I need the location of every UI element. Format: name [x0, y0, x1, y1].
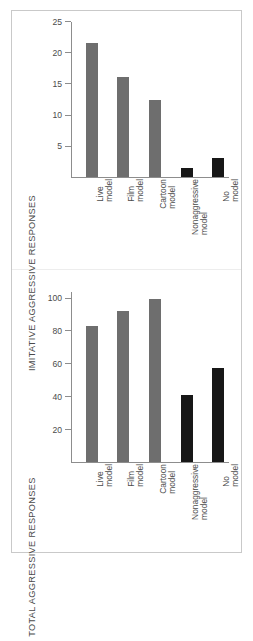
x-category-label: Livemodel: [96, 179, 115, 202]
x-axis-line: [71, 462, 229, 463]
y-axis-tick: 15: [65, 83, 71, 84]
x-category-labels: LivemodelFilmmodelCartoonmodelNonaggress…: [71, 464, 231, 550]
y-axis-tick-label: 20: [52, 48, 62, 58]
x-category-label: Nonaggressivemodel: [191, 464, 210, 520]
y-axis-tick: 5: [65, 146, 71, 147]
y-axis-tick: 100: [65, 298, 71, 299]
bar: [149, 299, 161, 462]
x-category-label-line2: model: [168, 179, 177, 209]
bar: [181, 395, 193, 462]
y-axis-tick-label: 10: [52, 110, 62, 120]
bar-group: [72, 22, 231, 177]
x-category-label: Cartoonmodel: [159, 464, 178, 494]
x-category-label: Livemodel: [96, 464, 115, 487]
x-category-label-line2: model: [231, 179, 240, 202]
y-axis-tick-label: 40: [52, 392, 62, 402]
y-axis-tick: 10: [65, 115, 71, 116]
x-category-label: Nomodel: [222, 179, 241, 202]
x-category-label-line2: model: [105, 464, 114, 487]
x-category-label-line2: model: [105, 179, 114, 202]
bar: [212, 368, 224, 462]
y-axis-title-total: TOTAL AGGRESSIVE RESPONSES: [22, 462, 42, 641]
chart-panel-imitative: IMITATIVE AGGRESSIVE RESPONSES 510152025…: [0, 0, 253, 272]
bar: [149, 100, 161, 177]
x-category-label: Filmmodel: [127, 179, 146, 202]
x-category-label: Filmmodel: [127, 464, 146, 487]
x-category-label-line2: model: [200, 179, 209, 235]
x-category-label: Nomodel: [222, 464, 241, 487]
bar: [117, 311, 129, 462]
bar: [117, 77, 129, 177]
bar: [212, 158, 224, 177]
y-axis-tick: 20: [65, 52, 71, 53]
x-category-label-line2: model: [136, 464, 145, 487]
bar: [181, 168, 193, 177]
y-axis-tick-label: 5: [57, 141, 62, 151]
y-axis-tick-label: 100: [48, 293, 62, 303]
y-axis-tick-label: 15: [52, 79, 62, 89]
y-axis-tick: 20: [65, 429, 71, 430]
x-category-label-line2: model: [231, 464, 240, 487]
x-category-labels: LivemodelFilmmodelCartoonmodelNonaggress…: [71, 179, 231, 265]
plot-area-total: 20406080100: [71, 292, 231, 463]
bar-group: [72, 292, 231, 462]
y-axis-tick-label: 60: [52, 359, 62, 369]
x-category-label-line2: model: [168, 464, 177, 494]
x-category-label: Cartoonmodel: [159, 179, 178, 209]
y-axis-tick-label: 20: [52, 425, 62, 435]
y-axis-tick: 40: [65, 396, 71, 397]
x-category-label-line2: model: [200, 464, 209, 520]
y-axis-tick-label: 80: [52, 326, 62, 336]
bar: [86, 326, 98, 462]
y-axis-tick: 25: [65, 21, 71, 22]
x-axis-line: [71, 177, 229, 178]
y-axis-tick: 80: [65, 330, 71, 331]
y-axis-tick: 60: [65, 363, 71, 364]
y-axis-tick-label: 25: [52, 17, 62, 27]
x-category-label-line2: model: [136, 179, 145, 202]
x-category-label: Nonaggressivemodel: [191, 179, 210, 235]
plot-area-imitative: 510152025: [71, 22, 231, 178]
chart-panel-total: TOTAL AGGRESSIVE RESPONSES 20406080100 L…: [0, 272, 253, 566]
bar: [86, 43, 98, 177]
